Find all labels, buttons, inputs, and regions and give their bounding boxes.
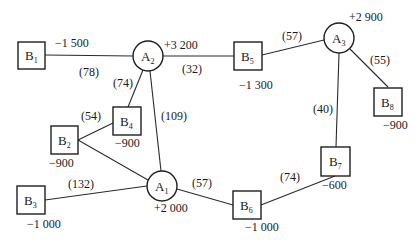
edge-a3-b7 [336,53,339,147]
edge-label-b5-a3: (57) [282,29,302,43]
node-b1-value: −1 500 [55,36,89,50]
node-b4-value: −900 [115,136,140,150]
edge-label-a2-b4: (74) [113,76,133,90]
edge-b1-a2 [45,55,133,56]
node-b5: B5 −1 300 [234,42,273,92]
node-b2: B2 −900 [49,126,78,170]
node-b3-value: −1 000 [27,217,61,231]
transport-network-diagram: (78) (32) (74) (109) (57) (55) (40) (54)… [0,0,417,244]
node-a2-value: +3 200 [164,38,198,52]
node-a1: A1 +2 000 [147,171,188,215]
node-a1-value: +2 000 [154,201,188,215]
node-b2-value: −900 [49,156,74,170]
edge-label-a3-b7: (40) [313,102,333,116]
node-b3: B3 −1 000 [17,186,61,231]
edge-a2-a1 [150,71,161,171]
node-b4: B4 −900 [113,107,141,150]
node-b7-value: −600 [322,178,347,192]
node-b6-value: −1 000 [245,220,279,234]
edge-label-a3-b8: (55) [370,53,390,67]
node-b5-value: −1 300 [239,78,273,92]
node-b8-value: −900 [383,118,408,132]
edge-label-b2-b4: (54) [81,109,101,123]
edge-label-b6-b7: (74) [280,170,300,184]
edge-label-a2-a1: (109) [161,109,187,123]
node-a3: A3 +2 900 [324,10,383,53]
node-b8: B8 −900 [374,88,408,132]
edge-label-a2-b5: (32) [182,62,202,76]
node-b6: B6 −1 000 [233,191,279,234]
node-b7: B7 −600 [321,147,350,192]
edge-label-b3-a1: (132) [68,177,94,191]
edge-b3-a1 [45,186,147,200]
edge-b2-b4 [78,123,113,140]
edge-label-a1-b6: (57) [192,176,212,190]
edge-label-b1-a2: (78) [79,65,99,79]
node-a3-value: +2 900 [349,10,383,24]
